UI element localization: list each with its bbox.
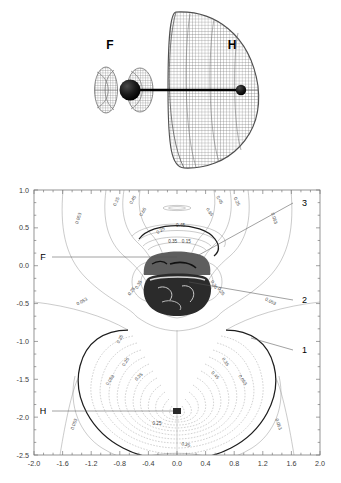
y-tick-label: -2.0 [17, 413, 29, 422]
y-tick-label: -2.5 [17, 451, 29, 460]
contour-level-label: 0.25 [121, 356, 130, 367]
x-tick-label: 1.6 [286, 459, 296, 468]
contour-level-label: 0.45 [215, 195, 224, 206]
y-tick-label: 0.0 [19, 261, 29, 270]
orbital-lobe-small-back [92, 64, 122, 118]
contour-level-label: 0.35 [134, 279, 143, 290]
callout-3-label: 3 [302, 198, 307, 208]
contour-level-label: 0.053 [237, 374, 248, 387]
y-tick-label: 0.5 [19, 223, 29, 232]
x-tick-label: 2.0 [315, 459, 325, 468]
contour-level-label: 0.25 [233, 196, 241, 207]
x-tick-label: 0.4 [201, 459, 211, 468]
contour-level-label: 0.053 [274, 418, 283, 431]
contour-level-label: 0.25 [153, 421, 162, 426]
label-hydrogen-contour: H [40, 406, 47, 416]
y-tick-label: -0.5 [17, 299, 29, 308]
contour-level-label: 0.35 [116, 334, 125, 345]
contour-level-label: 0.35 [221, 357, 230, 368]
fluorine-nucleus-3d [120, 80, 141, 101]
contour-level-label: 0.053 [105, 373, 116, 386]
x-tick-label: -0.4 [142, 459, 154, 468]
contour-level-label: 0.25 [112, 196, 120, 207]
contour-level-label: 0.053 [270, 212, 278, 225]
x-tick-label: -1.2 [85, 459, 97, 468]
contour-level-label: 0.053 [70, 418, 79, 431]
x-tick-label: 0.0 [172, 459, 182, 468]
label-fluorine-3d: F [106, 38, 113, 52]
hydrogen-nucleus-3d [236, 85, 246, 95]
y-tick-label: -1.5 [17, 375, 29, 384]
x-tick-label: 0.8 [229, 459, 239, 468]
contour-field [34, 190, 320, 473]
contour-level-label: 0.35 [168, 239, 177, 244]
y-tick-labels: 1.00.50.0-0.5-1.0-1.5-2.0-2.5 [17, 186, 29, 460]
label-hydrogen-3d: H [228, 38, 237, 52]
contour-level-label: 0.053 [74, 212, 82, 225]
contour-level-label: 0.45 [128, 194, 137, 205]
contour-level-label: 0.053 [76, 296, 89, 306]
x-tick-label: -2.0 [28, 459, 40, 468]
figure-root: F H [0, 0, 341, 483]
callout-1-label: 1 [302, 345, 307, 355]
contour-panel: 0.0530.250.450.650.650.450.250.0530.450.… [0, 180, 341, 483]
contour-level-label: 0.25 [181, 441, 191, 448]
x-tick-labels: -2.0-1.6-1.2-0.8-0.40.00.40.81.21.62.0 [28, 459, 325, 468]
orbital-3d-panel: F H [0, 0, 341, 180]
y-tick-label: 1.0 [19, 186, 29, 195]
contour-level-label: 0.053 [264, 297, 277, 307]
x-tick-label: -0.8 [114, 459, 126, 468]
y-tick-label: -1.0 [17, 337, 29, 346]
x-tick-label: 1.2 [258, 459, 268, 468]
hydrogen-marker [173, 408, 181, 414]
leader-callout-1 [251, 338, 293, 350]
label-fluorine-contour: F [40, 252, 46, 262]
contour-level-label: 0.45 [176, 223, 185, 228]
callout-2-label: 2 [302, 295, 307, 305]
contour-level-label: 0.15 [182, 239, 191, 244]
orbital-core [144, 252, 211, 317]
x-tick-label: -1.6 [56, 459, 68, 468]
